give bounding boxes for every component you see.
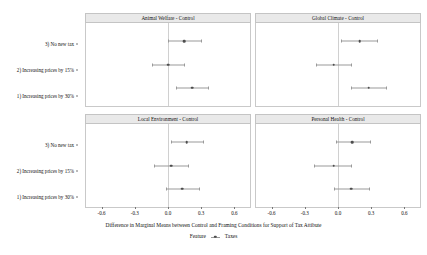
x-tick-mark xyxy=(201,207,202,209)
y-tick-mark xyxy=(76,43,78,44)
y-tick-mark xyxy=(76,96,78,97)
estimate-point xyxy=(367,86,370,89)
confidence-interval-cap xyxy=(176,86,177,89)
facet-strip: Animal Welfare - Control xyxy=(85,13,251,23)
y-tick-mark xyxy=(76,197,78,198)
confidence-interval-cap xyxy=(316,63,317,66)
confidence-interval-cap xyxy=(199,187,200,190)
estimate-point xyxy=(351,141,354,144)
x-tick-mark xyxy=(338,207,339,209)
plot-area xyxy=(85,124,251,208)
estimate-point xyxy=(332,164,335,167)
confidence-interval-cap xyxy=(188,164,189,167)
y-tick-label: 2) Increasing prices by 15% xyxy=(17,67,74,73)
estimate-point xyxy=(350,187,353,190)
confidence-interval-cap xyxy=(351,63,352,66)
x-tick-label: -0.3 xyxy=(131,210,139,216)
confidence-interval-cap xyxy=(168,40,169,43)
facet-strip-label: Local Environment - Control xyxy=(138,116,198,122)
confidence-interval-cap xyxy=(334,187,335,190)
plot-area xyxy=(85,23,251,107)
confidence-interval-cap xyxy=(154,164,155,167)
confidence-interval-cap xyxy=(351,86,352,89)
x-tick-label: -0.6 xyxy=(98,210,106,216)
facet-strip-label: Global Climate - Control xyxy=(312,15,364,21)
facet-panel: Local Environment - Control xyxy=(85,114,251,208)
confidence-interval-cap xyxy=(386,86,387,89)
confidence-interval-cap xyxy=(184,63,185,66)
confidence-interval-cap xyxy=(336,141,337,144)
facet-strip: Global Climate - Control xyxy=(255,13,421,23)
legend: Feature Taxes xyxy=(0,233,427,240)
confidence-interval-cap xyxy=(203,141,204,144)
confidence-interval-cap xyxy=(201,40,202,43)
x-tick-label: 0.6 xyxy=(401,210,407,216)
plot-area xyxy=(255,23,421,107)
x-tick-mark xyxy=(135,207,136,209)
y-tick-label: 3) No new tax xyxy=(45,41,74,47)
legend-title: Feature xyxy=(190,233,206,240)
confidence-interval-cap xyxy=(208,86,209,89)
estimate-point xyxy=(167,63,170,66)
y-axis-labels-top: 3) No new tax2) Increasing prices by 15%… xyxy=(0,23,78,117)
facet-panel: Global Climate - Control xyxy=(255,13,421,107)
x-tick-mark xyxy=(272,207,273,209)
estimate-point xyxy=(181,187,184,190)
estimate-point xyxy=(183,40,186,43)
confidence-interval-cap xyxy=(166,187,167,190)
x-axis-left: -0.6-0.30.00.30.6 xyxy=(85,207,251,221)
estimate-point xyxy=(170,164,173,167)
x-tick-mark xyxy=(168,207,169,209)
x-tick-label: 0.0 xyxy=(335,210,341,216)
facet-scatter-figure: 3) No new tax2) Increasing prices by 15%… xyxy=(0,0,427,255)
estimate-point xyxy=(185,141,188,144)
x-tick-label: 0.0 xyxy=(165,210,171,216)
confidence-interval-cap xyxy=(341,40,342,43)
facet-strip-label: Animal Welfare - Control xyxy=(141,15,194,21)
y-axis-labels-bottom: 3) No new tax2) Increasing prices by 15%… xyxy=(0,124,78,218)
confidence-interval-cap xyxy=(171,141,172,144)
confidence-interval-cap xyxy=(377,40,378,43)
estimate-point xyxy=(332,63,335,66)
legend-entry-taxes: Taxes xyxy=(225,233,238,240)
x-tick-label: -0.6 xyxy=(268,210,276,216)
confidence-interval-cap xyxy=(370,141,371,144)
x-tick-mark xyxy=(371,207,372,209)
estimate-point xyxy=(359,40,362,43)
y-tick-label: 2) Increasing prices by 15% xyxy=(17,168,74,174)
confidence-interval-cap xyxy=(152,63,153,66)
facet-strip: Local Environment - Control xyxy=(85,114,251,124)
x-tick-mark xyxy=(404,207,405,209)
x-tick-label: 0.3 xyxy=(198,210,204,216)
x-tick-label: 0.3 xyxy=(368,210,374,216)
confidence-interval-cap xyxy=(369,187,370,190)
y-tick-mark xyxy=(76,70,78,71)
confidence-interval-cap xyxy=(314,164,315,167)
x-tick-mark xyxy=(102,207,103,209)
y-tick-label: 3) No new tax xyxy=(45,142,74,148)
x-axis-title: Difference in Marginal Means between Con… xyxy=(0,222,427,229)
y-tick-label: 1) Increasing prices by 30% xyxy=(17,194,74,200)
x-tick-label: -0.3 xyxy=(301,210,309,216)
facet-panel: Personal Health - Control xyxy=(255,114,421,208)
legend-key-icon xyxy=(211,234,220,239)
facet-strip-label: Personal Health - Control xyxy=(311,116,364,122)
facet-strip: Personal Health - Control xyxy=(255,114,421,124)
y-tick-mark xyxy=(76,171,78,172)
x-tick-mark xyxy=(234,207,235,209)
x-tick-label: 0.6 xyxy=(231,210,237,216)
confidence-interval-cap xyxy=(351,164,352,167)
estimate-point xyxy=(191,86,194,89)
x-axis-right: -0.6-0.30.00.30.6 xyxy=(255,207,421,221)
plot-area xyxy=(255,124,421,208)
y-tick-label: 1) Increasing prices by 30% xyxy=(17,93,74,99)
y-tick-mark xyxy=(76,144,78,145)
x-tick-mark xyxy=(305,207,306,209)
facet-panel: Animal Welfare - Control xyxy=(85,13,251,107)
